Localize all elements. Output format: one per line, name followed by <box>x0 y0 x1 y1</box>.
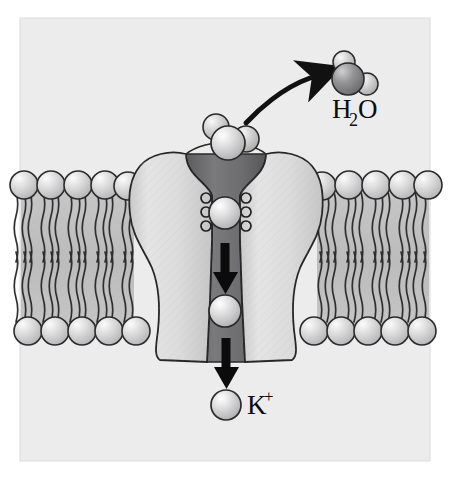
potassium-channel-figure: H 2 O K + <box>0 0 453 477</box>
potassium-ion-released <box>211 390 241 420</box>
figure-canvas: H 2 O K + <box>0 0 453 477</box>
potassium-ion-in-filter <box>209 197 241 229</box>
potassium-ion-in-pore <box>209 295 241 327</box>
water-label-subscript: 2 <box>349 110 358 130</box>
potassium-label-superscript: + <box>264 387 274 406</box>
water-label-o: O <box>358 94 378 124</box>
lipid-heads-left-lower <box>14 317 150 345</box>
hydrated-ion-core <box>211 126 245 160</box>
lipid-heads-right-upper <box>308 171 442 200</box>
oxygen-atom <box>332 63 364 95</box>
lipid-heads-left-upper <box>10 171 142 200</box>
lipid-heads-right-lower <box>300 317 436 345</box>
